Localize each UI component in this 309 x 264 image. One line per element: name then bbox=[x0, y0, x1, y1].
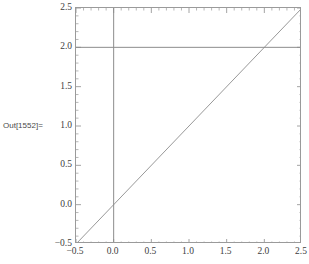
x-tick-label: 2.0 bbox=[257, 246, 269, 256]
y-tick-label: 1.5 bbox=[60, 81, 72, 91]
x-tick-label: 0.0 bbox=[107, 246, 119, 256]
y-tick-label: 1.0 bbox=[60, 120, 72, 130]
x-tick-label: 2.5 bbox=[295, 246, 307, 256]
x-tick-label: 1.5 bbox=[220, 246, 232, 256]
x-axis-tick-labels: −0.50.00.51.01.52.02.5 bbox=[75, 246, 301, 260]
plot-canvas bbox=[76, 8, 301, 243]
series-identity-line bbox=[76, 8, 301, 243]
y-tick-label: 2.5 bbox=[60, 2, 72, 12]
x-tick-label: 0.5 bbox=[144, 246, 156, 256]
y-tick-label: 0.5 bbox=[60, 159, 72, 169]
x-tick-label: −0.5 bbox=[66, 246, 83, 256]
plot-frame bbox=[75, 7, 301, 243]
y-tick-label: 0.0 bbox=[60, 199, 72, 209]
y-axis-tick-labels: −0.50.00.51.01.52.02.5 bbox=[44, 7, 72, 243]
y-tick-label: 2.0 bbox=[60, 41, 72, 51]
x-tick-label: 1.0 bbox=[182, 246, 194, 256]
plot-output-cell: Out[1552]= −0.50.00.51.01.52.02.5 −0.50.… bbox=[0, 0, 309, 264]
output-label: Out[1552]= bbox=[3, 121, 43, 130]
